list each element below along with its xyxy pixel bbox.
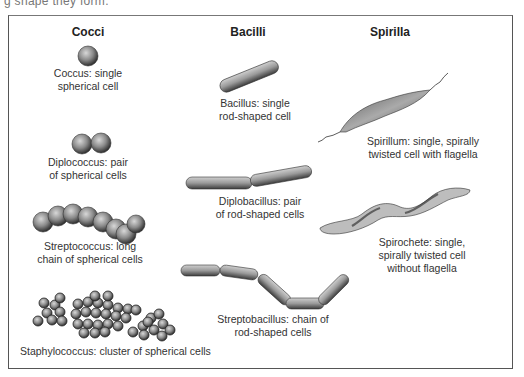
coccus-label: Coccus: single spherical cell <box>38 67 138 93</box>
streptobacillus-label-line2: rod-shaped cells <box>208 326 338 339</box>
diplococcus-label-line2: of spherical cells <box>38 169 138 182</box>
spirochete-label-line3: without flagella <box>360 262 484 275</box>
column-header-spirilla: Spirilla <box>340 25 440 39</box>
staphylococcus-label: Staphylococcus: cluster of spherical cel… <box>20 345 210 358</box>
spirochete-icon <box>320 188 470 234</box>
streptobacillus-label: Streptobacillus: chain of rod-shaped cel… <box>208 313 338 339</box>
diplococcus-icon <box>72 133 111 154</box>
diplococcus-label-line1: Diplococcus: pair <box>38 156 138 169</box>
spirillum-label: Spirillum: single, spirally twisted cell… <box>358 135 488 161</box>
coccus-label-line2: spherical cell <box>38 80 138 93</box>
bacillus-icon <box>218 59 280 94</box>
streptococcus-label: Streptococcus: long chain of spherical c… <box>28 240 152 266</box>
spirillum-label-line1: Spirillum: single, spirally <box>358 135 488 148</box>
diplobacillus-label-line2: of rod-shaped cells <box>203 208 317 221</box>
diplobacillus-icon <box>186 165 313 189</box>
streptococcus-label-line1: Streptococcus: long <box>28 240 152 253</box>
spirochete-label: Spirochete: single, spirally twisted cel… <box>360 236 484 275</box>
spirochete-label-line2: spirally twisted cell <box>360 249 484 262</box>
coccus-label-line1: Coccus: single <box>38 67 138 80</box>
coccus-icon <box>78 46 98 66</box>
streptobacillus-icon <box>181 264 351 309</box>
diplococcus-label: Diplococcus: pair of spherical cells <box>38 156 138 182</box>
spirochete-label-line1: Spirochete: single, <box>360 236 484 249</box>
bacillus-label-line1: Bacillus: single <box>200 97 310 110</box>
spirillum-icon <box>318 73 448 142</box>
streptobacillus-label-line1: Streptobacillus: chain of <box>208 313 338 326</box>
bacillus-label-line2: rod-shaped cell <box>200 110 310 123</box>
staphylococcus-label-line1: Staphylococcus: cluster of spherical cel… <box>20 345 210 358</box>
bacillus-label: Bacillus: single rod-shaped cell <box>200 97 310 123</box>
spirillum-label-line2: twisted cell with flagella <box>358 148 488 161</box>
staphylococcus-icon <box>33 291 175 341</box>
column-header-bacilli: Bacilli <box>198 25 298 39</box>
streptococcus-icon <box>33 204 145 244</box>
diplobacillus-label-line1: Diplobacillus: pair <box>203 195 317 208</box>
column-header-cocci: Cocci <box>38 25 138 39</box>
streptococcus-label-line2: chain of spherical cells <box>28 253 152 266</box>
diplobacillus-label: Diplobacillus: pair of rod-shaped cells <box>203 195 317 221</box>
